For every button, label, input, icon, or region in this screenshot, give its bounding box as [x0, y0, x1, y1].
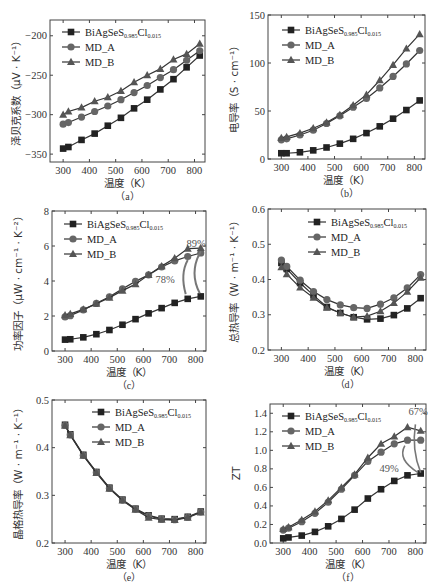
x-tick-label: 800: [407, 353, 423, 364]
legend-label-1: BiAgSeS0.985Cl0.015: [305, 411, 381, 423]
legend: BiAgSeS0.985Cl0.015MD_AMD_B: [282, 411, 381, 452]
panel-caption: （f）: [336, 572, 359, 583]
y-tick-label: 0.2: [36, 538, 49, 549]
chart-panel-d: 3004005006007008000.20.30.40.50.6温度（K）总热…: [228, 204, 426, 391]
y-tick-label: −200: [25, 30, 47, 41]
legend-label-3: MD_B: [331, 247, 360, 258]
x-axis-label: 温度（K）: [325, 558, 372, 570]
chart-panel-c: 30040050060070080002468温度（K）功率因子（μW · cm…: [12, 206, 206, 392]
x-tick-label: 300: [57, 546, 73, 557]
y-axis-label: 功率因子（μW · cm⁻¹ · K⁻²）: [12, 211, 24, 350]
x-tick-label: 600: [354, 353, 370, 364]
plot-frame: [270, 404, 426, 543]
legend-label-1: BiAgSeS0.985Cl0.015: [305, 25, 381, 37]
y-tick-label: 0.6: [252, 204, 265, 215]
x-tick-label: 600: [135, 546, 151, 557]
x-axis-label: 温度（K）: [106, 558, 153, 570]
x-tick-label: 600: [134, 165, 150, 176]
y-tick-label: 150: [249, 10, 265, 21]
y-tick-label: 0.4: [252, 274, 266, 285]
legend: BiAgSeS0.985Cl0.015MD_AMD_B: [308, 217, 407, 258]
y-tick-label: 2: [44, 311, 49, 322]
panel-caption: （b）: [334, 188, 359, 199]
y-tick-label: 0.3: [252, 309, 265, 320]
legend-label-1: BiAgSeS0.985Cl0.015: [115, 407, 191, 419]
x-tick-label: 800: [408, 546, 424, 557]
y-tick-label: 0: [44, 346, 49, 357]
panel-caption: （a）: [115, 191, 139, 202]
x-tick-label: 800: [187, 165, 203, 176]
y-tick-label: 1.4: [254, 408, 268, 419]
legend: BiAgSeS0.985Cl0.015MD_AMD_B: [282, 25, 381, 66]
svg-text:78%: 78%: [155, 274, 175, 285]
x-tick-label: 600: [353, 162, 369, 173]
x-tick-label: 600: [135, 354, 151, 365]
x-tick-label: 500: [327, 162, 343, 173]
x-tick-label: 700: [381, 353, 397, 364]
legend-label-2: MD_A: [331, 232, 361, 243]
x-axis-label: 温度（K）: [324, 365, 371, 377]
legend-label-2: MD_A: [115, 422, 145, 433]
y-tick-label: 0.6: [254, 482, 267, 493]
x-tick-label: 700: [162, 546, 178, 557]
y-tick-label: −250: [25, 70, 47, 81]
x-tick-label: 400: [83, 546, 99, 557]
legend-label-2: MD_A: [87, 234, 117, 245]
y-tick-label: −300: [25, 109, 47, 120]
x-tick-label: 700: [160, 165, 176, 176]
legend-label-2: MD_A: [85, 42, 115, 53]
legend: BiAgSeS0.985Cl0.015MD_AMD_B: [64, 219, 163, 260]
x-tick-label: 400: [302, 546, 318, 557]
y-tick-label: 0.2: [252, 345, 265, 356]
legend-label-2: MD_A: [305, 40, 335, 51]
x-tick-label: 300: [57, 354, 73, 365]
x-axis-label: 温度（K）: [106, 366, 153, 378]
figure-canvas: 300400500600700800−350−300−250−200温度（K）泽…: [0, 0, 438, 586]
svg-text:89%: 89%: [186, 238, 206, 249]
x-tick-label: 500: [109, 546, 125, 557]
svg-text:67%: 67%: [408, 406, 428, 417]
x-tick-label: 800: [406, 162, 422, 173]
legend-label-3: MD_B: [305, 441, 334, 452]
legend-label-1: BiAgSeS0.985Cl0.015: [87, 219, 163, 231]
y-axis-label: 泽贝克系数（μV · K⁻¹）: [10, 36, 22, 147]
legend: BiAgSeS0.985Cl0.015MD_AMD_B: [92, 407, 191, 448]
x-axis-label: 温度（K）: [104, 177, 151, 189]
y-tick-label: 0.4: [254, 500, 268, 511]
chart-panel-b: 300400500600700800050100150温度（K）电导率（S · …: [228, 10, 425, 200]
x-tick-label: 400: [82, 165, 98, 176]
y-tick-label: 50: [255, 106, 266, 117]
chart-panel-f: 3004005006007008000.00.20.40.60.81.01.21…: [230, 404, 428, 583]
legend-label-3: MD_B: [87, 249, 116, 260]
chart-panel-e: 3004005006007008000.20.30.40.5温度（K）晶格热导率…: [12, 395, 206, 584]
panel-caption: （c）: [117, 380, 141, 391]
x-tick-label: 500: [109, 354, 125, 365]
series-square: [60, 52, 203, 152]
y-tick-label: 4: [44, 276, 50, 287]
y-tick-label: 0.5: [36, 395, 49, 406]
legend-label-1: BiAgSeS0.985Cl0.015: [331, 217, 407, 229]
svg-text:49%: 49%: [379, 463, 399, 474]
x-axis-label: 温度（K）: [323, 174, 370, 186]
series-circle: [60, 47, 204, 128]
x-tick-label: 700: [380, 162, 396, 173]
x-tick-label: 700: [162, 354, 178, 365]
legend-label-3: MD_B: [85, 57, 114, 68]
y-tick-label: 0: [260, 154, 265, 165]
y-tick-label: 0.2: [254, 519, 267, 530]
y-axis-label: 晶格热导率（W · m⁻¹ · K⁻¹）: [12, 403, 24, 540]
panel-caption: （e）: [117, 572, 141, 583]
y-tick-label: 100: [249, 58, 265, 69]
x-tick-label: 800: [188, 546, 204, 557]
y-tick-label: 6: [44, 241, 49, 252]
x-tick-label: 300: [275, 546, 291, 557]
x-tick-label: 500: [328, 546, 344, 557]
y-tick-label: −350: [25, 149, 47, 160]
y-tick-label: 1.0: [254, 445, 267, 456]
x-tick-label: 500: [108, 165, 124, 176]
x-tick-label: 400: [83, 354, 99, 365]
y-tick-label: 0.4: [36, 442, 50, 453]
y-axis-label: 总热导率（W · m⁻¹ · K⁻¹）: [228, 216, 240, 343]
legend: BiAgSeS0.985Cl0.015MD_AMD_B: [62, 27, 161, 68]
y-tick-label: 0.3: [36, 490, 49, 501]
